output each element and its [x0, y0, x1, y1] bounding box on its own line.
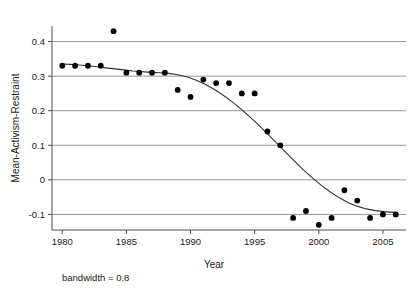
- data-point: [149, 70, 155, 76]
- y-axis-title: Mean-Activism-Restraint: [10, 73, 21, 182]
- data-point: [162, 70, 168, 76]
- data-point: [265, 129, 271, 135]
- data-point: [252, 91, 258, 97]
- data-point: [98, 63, 104, 69]
- y-tick-label: -0.1: [29, 209, 45, 220]
- data-point: [213, 80, 219, 86]
- data-point: [188, 94, 194, 100]
- data-point: [329, 215, 335, 221]
- x-tick-label: 1980: [52, 236, 73, 247]
- y-tick-label: 0.3: [32, 71, 45, 82]
- data-point: [342, 187, 348, 193]
- data-point: [123, 70, 129, 76]
- data-point: [380, 212, 386, 218]
- data-point: [316, 222, 322, 228]
- x-tick-label: 1990: [180, 236, 201, 247]
- bandwidth-annotation: bandwidth = 0.8: [62, 272, 129, 283]
- x-axis-title: Year: [204, 259, 225, 270]
- data-point: [200, 77, 206, 83]
- data-point: [85, 63, 91, 69]
- data-point: [136, 70, 142, 76]
- data-point: [111, 28, 117, 34]
- data-point: [303, 208, 309, 214]
- data-point: [175, 87, 181, 93]
- y-tick-label: 0.4: [32, 36, 45, 47]
- scatter-plot-svg: -0.100.10.20.30.4 1980198519901995200020…: [0, 0, 419, 296]
- y-tick-label: 0.1: [32, 140, 45, 151]
- data-point: [59, 63, 65, 69]
- data-point: [393, 212, 399, 218]
- data-point: [226, 80, 232, 86]
- x-tick-label: 2005: [372, 236, 393, 247]
- chart-background: [0, 0, 419, 296]
- data-point: [290, 215, 296, 221]
- y-tick-label: 0: [40, 174, 45, 185]
- chart-figure: -0.100.10.20.30.4 1980198519901995200020…: [0, 0, 419, 296]
- x-tick-label: 1985: [116, 236, 137, 247]
- x-tick-label: 1995: [244, 236, 265, 247]
- data-point: [354, 198, 360, 204]
- data-point: [367, 215, 373, 221]
- data-point: [239, 91, 245, 97]
- data-point: [277, 142, 283, 148]
- data-point: [72, 63, 78, 69]
- x-tick-label: 2000: [308, 236, 329, 247]
- y-tick-label: 0.2: [32, 105, 45, 116]
